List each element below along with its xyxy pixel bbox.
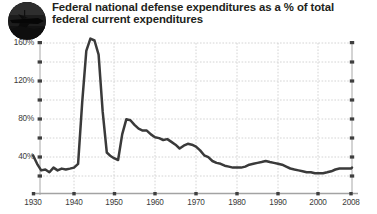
x-tick-label-1930: 1930: [13, 198, 53, 207]
x-tick-label-1980: 1980: [217, 198, 257, 207]
x-tick-label-2008: 2008: [331, 198, 371, 207]
y-tick-label-120: 120%: [0, 76, 34, 85]
x-tick-label-1970: 1970: [176, 198, 216, 207]
x-tick-label-1990: 1990: [258, 198, 298, 207]
x-tick-label-1960: 1960: [135, 198, 175, 207]
chart-figure: Federal national defense expenditures as…: [0, 0, 377, 214]
y-tick-label-40: 40%: [0, 152, 34, 161]
x-tick-label-1950: 1950: [94, 198, 134, 207]
x-tick-label-1940: 1940: [54, 198, 94, 207]
chart-plot: 160% 120% 80% 40% 1930 1940 1950 1960 19…: [0, 0, 377, 214]
y-tick-label-160: 160%: [0, 38, 34, 47]
defense-expenditure-line: [33, 39, 352, 174]
y-tick-label-80: 80%: [0, 114, 34, 123]
